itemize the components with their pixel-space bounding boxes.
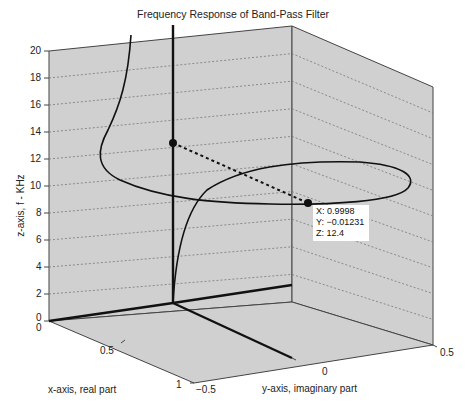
z-tick: 20 [30, 45, 41, 56]
datatip-x: X: 0.9998 [316, 206, 366, 217]
z-tick: 12 [30, 153, 41, 164]
z-axis-label: z-axis, f - KHz [15, 146, 26, 266]
x-tick: 0 [36, 322, 42, 333]
z-tick: 8 [36, 207, 42, 218]
z-tick: 4 [36, 261, 42, 272]
datatip-y: Y: −0.01231 [316, 217, 366, 228]
back-left-wall [49, 26, 292, 321]
z-tick: 16 [30, 99, 41, 110]
y-tick: 0 [322, 366, 328, 377]
x-axis-label: x-axis, real part [48, 384, 116, 395]
y-tick: −0.5 [196, 384, 216, 395]
z-tick: 6 [36, 234, 42, 245]
x-tick: 1 [176, 379, 182, 390]
z-tick: 14 [30, 126, 41, 137]
z-tick: 2 [36, 288, 42, 299]
z-tick: 10 [30, 180, 41, 191]
datatip-box[interactable]: X: 0.9998 Y: −0.01231 Z: 12.4 [313, 205, 369, 241]
x-tick: 0.5 [100, 345, 114, 356]
y-axis-label: y-axis, imaginary part [262, 383, 357, 394]
projected-marker [169, 139, 177, 147]
y-tick: 0.5 [440, 347, 454, 358]
z-tick: 18 [30, 72, 41, 83]
datatip-z: Z: 12.4 [316, 228, 366, 239]
datatip-marker[interactable] [304, 199, 312, 207]
plot-3d-axes[interactable] [0, 0, 466, 409]
